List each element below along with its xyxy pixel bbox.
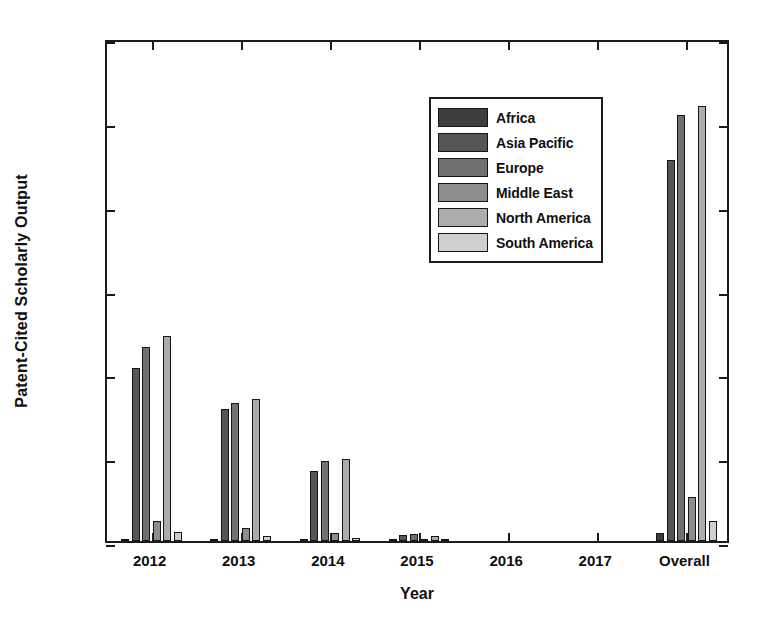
bar — [342, 459, 350, 541]
bar — [688, 497, 696, 541]
y-tick-mark-right — [719, 545, 728, 547]
x-tick-mark — [508, 533, 510, 542]
bar — [677, 115, 685, 541]
legend-item[interactable]: Europe — [438, 155, 594, 180]
bar — [656, 533, 664, 541]
bar — [310, 471, 318, 541]
legend-swatch-icon — [438, 208, 488, 227]
x-tick-mark — [597, 533, 599, 542]
x-tick-label: 2017 — [579, 552, 612, 569]
legend-label: South America — [496, 235, 593, 251]
legend-item[interactable]: North America — [438, 205, 594, 230]
bar — [163, 336, 171, 541]
bar — [709, 521, 717, 541]
x-tick-label: 2012 — [133, 552, 166, 569]
bar — [399, 535, 407, 541]
bar — [667, 160, 675, 541]
legend-label: North America — [496, 210, 591, 226]
bar — [321, 461, 329, 541]
x-tick-mark-top — [330, 41, 332, 50]
x-tick-mark-top — [508, 41, 510, 50]
bar — [300, 539, 308, 541]
bar — [698, 106, 706, 541]
x-tick-label: 2016 — [489, 552, 522, 569]
x-tick-mark-top — [152, 41, 154, 50]
bar — [441, 539, 449, 541]
bar — [153, 521, 161, 541]
y-tick-mark-right — [719, 377, 728, 379]
x-tick-label: 2013 — [222, 552, 255, 569]
bar — [252, 399, 260, 541]
plot-area — [105, 40, 729, 543]
y-axis-title: Patent-Cited Scholarly Output — [13, 174, 31, 407]
bar — [174, 532, 182, 541]
bar — [210, 539, 218, 541]
y-tick-mark — [106, 294, 115, 296]
legend-item[interactable]: Asia Pacific — [438, 130, 594, 155]
y-tick-mark — [106, 377, 115, 379]
y-tick-mark — [106, 42, 115, 44]
legend-item[interactable]: South America — [438, 230, 594, 255]
bar — [263, 536, 271, 541]
y-tick-mark — [106, 545, 115, 547]
bar — [331, 533, 339, 541]
x-tick-mark-top — [686, 41, 688, 50]
bar — [142, 347, 150, 541]
legend-label: Asia Pacific — [496, 135, 573, 151]
legend-label: Europe — [496, 160, 544, 176]
x-axis-title: Year — [400, 585, 434, 603]
legend-label: Africa — [496, 110, 535, 126]
y-tick-mark-right — [719, 42, 728, 44]
bar — [389, 539, 397, 541]
y-tick-mark — [106, 210, 115, 212]
legend-label: Middle East — [496, 185, 573, 201]
legend-swatch-icon — [438, 108, 488, 127]
chart-legend: AfricaAsia PacificEuropeMiddle EastNorth… — [429, 97, 603, 263]
bar — [242, 528, 250, 541]
x-tick-mark-top — [241, 41, 243, 50]
bar — [420, 539, 428, 541]
x-tick-mark-top — [419, 41, 421, 50]
x-tick-label: Overall — [659, 552, 710, 569]
x-tick-label: 2015 — [400, 552, 433, 569]
bar — [221, 409, 229, 541]
y-tick-mark-right — [719, 210, 728, 212]
bar — [431, 536, 439, 541]
legend-item[interactable]: Africa — [438, 105, 594, 130]
x-tick-mark-top — [597, 41, 599, 50]
legend-swatch-icon — [438, 233, 488, 252]
bar — [352, 538, 360, 541]
bar — [121, 539, 129, 541]
bar — [132, 368, 140, 541]
legend-item[interactable]: Middle East — [438, 180, 594, 205]
y-tick-mark — [106, 126, 115, 128]
bar — [231, 403, 239, 541]
x-tick-label: 2014 — [311, 552, 344, 569]
legend-swatch-icon — [438, 133, 488, 152]
y-tick-mark-right — [719, 294, 728, 296]
y-tick-mark-right — [719, 461, 728, 463]
legend-swatch-icon — [438, 158, 488, 177]
bar-chart-figure: Patent-Cited Scholarly Output Year 05001… — [0, 0, 757, 635]
legend-swatch-icon — [438, 183, 488, 202]
y-tick-mark — [106, 461, 115, 463]
y-tick-mark-right — [719, 126, 728, 128]
bar — [410, 534, 418, 541]
